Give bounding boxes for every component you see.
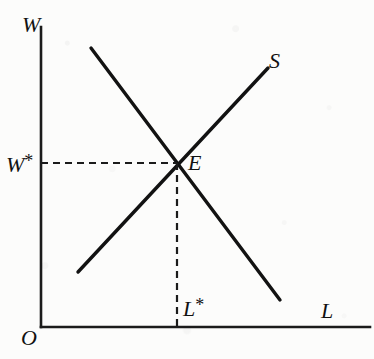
y-axis-label: W	[22, 14, 40, 36]
supply-demand-figure: W W* O L L* S E	[0, 0, 374, 359]
equilibrium-labor-label: L*	[183, 296, 204, 320]
equilibrium-labor-letter: L	[183, 296, 195, 321]
supply-curve-label: S	[269, 50, 280, 72]
supply-curve	[78, 68, 268, 272]
equilibrium-point-label: E	[188, 152, 201, 174]
x-axis-label: L	[321, 300, 333, 322]
equilibrium-wage-label: W*	[6, 152, 33, 176]
equilibrium-labor-asterisk: *	[195, 295, 204, 315]
equilibrium-wage-asterisk: *	[24, 151, 33, 171]
origin-label: O	[21, 327, 37, 349]
equilibrium-wage-letter: W	[6, 152, 24, 177]
